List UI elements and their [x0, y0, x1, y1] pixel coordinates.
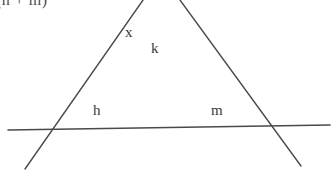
angle-label-h: h	[93, 103, 101, 118]
geometry-figure: (h + m) x k h m	[0, 0, 335, 172]
angle-label-m: m	[211, 103, 223, 118]
angle-label-x: x	[125, 25, 133, 40]
transversal-right-line	[180, 0, 301, 166]
horizontal-base-line	[8, 125, 330, 130]
angle-label-k: k	[151, 41, 159, 56]
diagram-canvas	[0, 0, 335, 172]
